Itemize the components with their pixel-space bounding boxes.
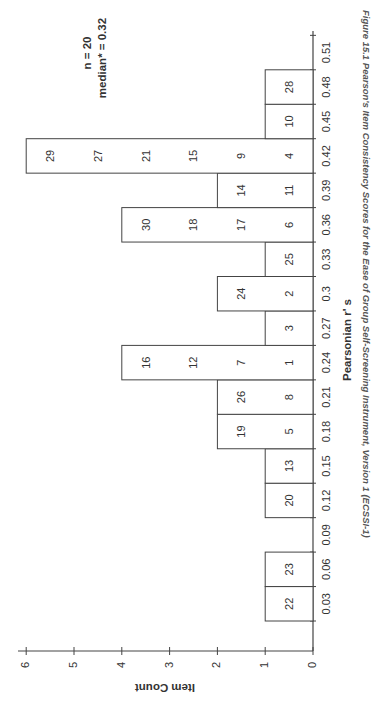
bin-label: 0.15 xyxy=(320,455,332,476)
item-label: 25 xyxy=(283,253,295,265)
n-annotation: n = 20 xyxy=(81,37,93,70)
bin-label: 0.21 xyxy=(320,386,332,407)
item-label: 29 xyxy=(44,150,56,162)
item-label: 30 xyxy=(140,219,152,231)
histogram-bar xyxy=(217,173,313,207)
count-tick-label: 4 xyxy=(115,662,127,668)
item-label: 10 xyxy=(283,115,295,127)
bin-label: 0.03 xyxy=(320,593,332,614)
x-axis-title: Pearsonian r' s xyxy=(341,299,353,381)
bin-label: 0.33 xyxy=(320,249,332,270)
item-label: 20 xyxy=(283,494,295,506)
item-label: 16 xyxy=(140,357,152,369)
count-tick-label: 1 xyxy=(258,662,270,668)
bin-label: 0.24 xyxy=(320,352,332,373)
item-label: 24 xyxy=(235,288,247,300)
item-label: 12 xyxy=(187,357,199,369)
item-label: 9 xyxy=(235,153,247,159)
bin-label: 0.3 xyxy=(320,286,332,301)
item-label: 6 xyxy=(283,222,295,228)
item-label: 26 xyxy=(235,391,247,403)
item-label: 28 xyxy=(283,81,295,93)
median-annotation: median* = 0.32 xyxy=(96,18,108,98)
item-label: 14 xyxy=(235,184,247,196)
bin-label: 0.45 xyxy=(320,111,332,132)
item-label: 19 xyxy=(235,425,247,437)
count-tick-label: 2 xyxy=(210,662,222,668)
item-label: 1 xyxy=(283,360,295,366)
bin-label: 0.39 xyxy=(320,180,332,201)
histogram-bar xyxy=(217,380,313,414)
item-label: 8 xyxy=(283,394,295,400)
bin-label: 0.27 xyxy=(320,317,332,338)
item-label: 11 xyxy=(283,185,295,196)
bin-label: 0.48 xyxy=(320,76,332,97)
count-tick-label: 3 xyxy=(163,662,175,668)
bin-label: 0.36 xyxy=(320,214,332,235)
histogram-bar xyxy=(217,277,313,311)
item-label: 4 xyxy=(283,153,295,159)
bin-label: 0.09 xyxy=(320,524,332,545)
histogram-chart: 0123456Item Count0.030.060.090.120.150.1… xyxy=(0,0,373,706)
bin-label: 0.12 xyxy=(320,490,332,511)
item-label: 3 xyxy=(283,325,295,331)
bin-label: 0.51 xyxy=(320,42,332,63)
y-axis-title: Item Count xyxy=(135,682,195,694)
item-label: 18 xyxy=(187,219,199,231)
count-tick-label: 0 xyxy=(306,662,318,668)
caption: Figure 15.1 Pearson's Item Consistency S… xyxy=(360,10,372,706)
item-label: 2 xyxy=(283,291,295,297)
item-label: 27 xyxy=(92,150,104,162)
count-tick-label: 5 xyxy=(67,662,79,668)
item-label: 22 xyxy=(283,598,295,610)
item-label: 23 xyxy=(283,563,295,575)
bin-label: 0.42 xyxy=(320,145,332,166)
item-label: 5 xyxy=(283,428,295,434)
bin-label: 0.18 xyxy=(320,421,332,442)
item-label: 17 xyxy=(235,219,247,231)
histogram-bar xyxy=(217,414,313,448)
item-label: 15 xyxy=(187,150,199,162)
histogram-bar xyxy=(26,139,313,173)
bin-label: 0.06 xyxy=(320,559,332,580)
item-label: 7 xyxy=(235,360,247,366)
item-label: 13 xyxy=(283,460,295,472)
count-tick-label: 6 xyxy=(19,662,31,668)
item-label: 21 xyxy=(140,150,152,162)
